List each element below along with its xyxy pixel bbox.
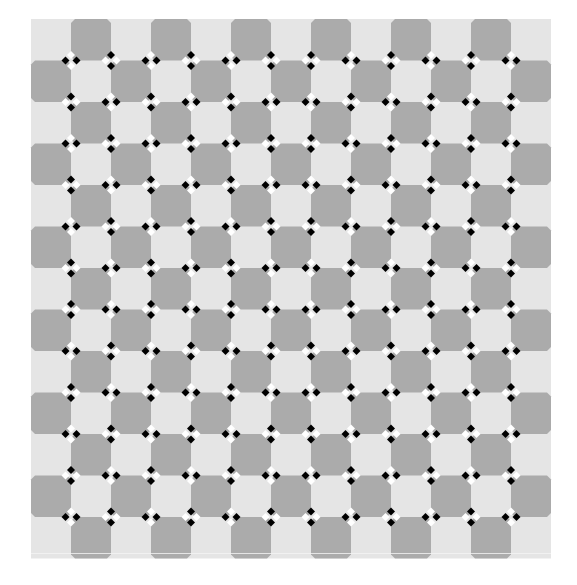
dark-square	[511, 144, 551, 186]
checkerboard-illusion	[0, 0, 577, 585]
dark-square	[351, 310, 391, 352]
dark-square	[191, 61, 231, 103]
dark-square	[511, 476, 551, 518]
dark-square	[391, 434, 431, 476]
dark-square	[151, 268, 191, 310]
dark-square	[431, 476, 471, 518]
dark-square	[31, 393, 71, 435]
dark-square	[71, 351, 111, 393]
dark-square	[231, 185, 271, 227]
dark-square	[231, 517, 271, 559]
dark-square	[31, 310, 71, 352]
dark-square	[271, 227, 311, 269]
dark-square	[511, 61, 551, 103]
dark-square	[431, 393, 471, 435]
dark-square	[111, 476, 151, 518]
dark-square	[391, 102, 431, 144]
dark-square	[511, 310, 551, 352]
dark-square	[71, 102, 111, 144]
dark-square	[271, 476, 311, 518]
dark-square	[471, 351, 511, 393]
dark-square	[151, 434, 191, 476]
dark-square	[111, 61, 151, 103]
dark-square	[71, 517, 111, 559]
dark-square	[151, 19, 191, 61]
dark-square	[271, 310, 311, 352]
dark-square	[391, 185, 431, 227]
dark-square	[191, 144, 231, 186]
dark-square	[151, 185, 191, 227]
dark-square	[351, 61, 391, 103]
dark-square	[511, 393, 551, 435]
dark-square	[471, 19, 511, 61]
dark-square	[511, 227, 551, 269]
dark-square	[471, 185, 511, 227]
dark-square	[111, 227, 151, 269]
dark-square	[471, 268, 511, 310]
dark-square	[391, 351, 431, 393]
illusion-canvas: Checkerboard bulge illusion	[0, 0, 577, 585]
dark-square	[191, 393, 231, 435]
dark-square	[71, 434, 111, 476]
dark-square	[471, 434, 511, 476]
dark-square	[311, 268, 351, 310]
dark-square	[31, 144, 71, 186]
dark-square	[311, 351, 351, 393]
bottom-line	[31, 553, 551, 554]
dark-square	[31, 61, 71, 103]
dark-square	[471, 102, 511, 144]
dark-square	[311, 517, 351, 559]
dark-square	[311, 185, 351, 227]
dark-square	[111, 144, 151, 186]
dark-square	[311, 102, 351, 144]
dark-square	[231, 268, 271, 310]
dark-square	[31, 227, 71, 269]
dark-square	[351, 227, 391, 269]
dark-square	[351, 476, 391, 518]
dark-square	[431, 61, 471, 103]
dark-square	[31, 476, 71, 518]
dark-square	[111, 393, 151, 435]
dark-square	[71, 185, 111, 227]
dark-square	[71, 268, 111, 310]
dark-square	[311, 19, 351, 61]
dark-square	[391, 19, 431, 61]
dark-square	[391, 517, 431, 559]
dark-square	[431, 310, 471, 352]
dark-square	[271, 61, 311, 103]
dark-square	[151, 102, 191, 144]
dark-square	[391, 268, 431, 310]
dark-square	[191, 476, 231, 518]
dark-square	[191, 227, 231, 269]
dark-square	[431, 227, 471, 269]
dark-square	[231, 434, 271, 476]
dark-square	[231, 102, 271, 144]
dark-square	[431, 144, 471, 186]
dark-square	[111, 310, 151, 352]
dark-square	[151, 517, 191, 559]
dark-square	[351, 144, 391, 186]
dark-square	[151, 351, 191, 393]
dark-square	[471, 517, 511, 559]
dark-square	[231, 351, 271, 393]
dark-square	[351, 393, 391, 435]
dark-square	[271, 393, 311, 435]
dark-square	[71, 19, 111, 61]
dark-square	[271, 144, 311, 186]
dark-square	[311, 434, 351, 476]
dark-square	[231, 19, 271, 61]
dark-square	[191, 310, 231, 352]
